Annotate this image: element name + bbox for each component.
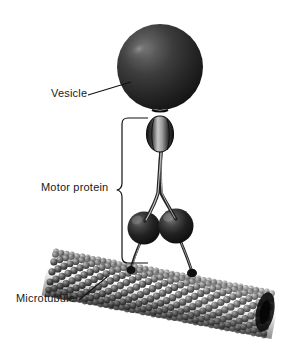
leg-right-highlight (180, 240, 192, 271)
vesicle-neck-shadow (152, 110, 168, 112)
motor-heads (128, 209, 194, 245)
motor-head-right (159, 209, 194, 244)
label-microtubule: Microtubule (16, 293, 75, 304)
vesicle (117, 24, 203, 112)
leg-left-highlight (132, 241, 141, 268)
label-vesicle: Vesicle (51, 88, 87, 99)
microtubule-shading (42, 248, 281, 339)
vesicle-body (117, 24, 203, 110)
figure-canvas: Vesicle Motor protein Microtubule (0, 0, 291, 347)
cargo-binding-domain (147, 116, 174, 152)
motor-head-left (128, 212, 161, 245)
microtubule (42, 248, 281, 339)
foot-right (187, 269, 197, 278)
foot-left (126, 266, 135, 274)
label-motor-protein: Motor protein (41, 182, 108, 193)
stalk-right-branch (160, 150, 176, 219)
